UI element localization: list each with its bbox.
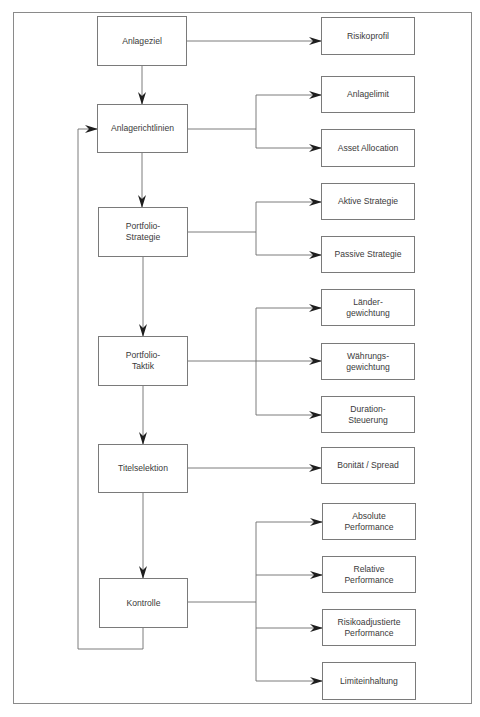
step-label: Portfolio- Strategie xyxy=(126,221,160,243)
detail-label: Absolute Performance xyxy=(344,511,393,533)
detail-label: Aktive Strategie xyxy=(338,196,398,207)
detail-label: Bonität / Spread xyxy=(337,460,399,471)
step-titelselektion: Titelselektion xyxy=(98,444,188,493)
detail-laendergewichtung: Länder- gewichtung xyxy=(321,289,415,326)
step-label: Anlageziel xyxy=(122,36,162,47)
step-anlageziel: Anlageziel xyxy=(97,16,187,66)
step-label: Portfolio- Taktik xyxy=(126,350,160,372)
detail-label: Risikoprofil xyxy=(347,31,389,42)
detail-label: Anlagelimit xyxy=(347,89,389,100)
detail-label: Passive Strategie xyxy=(335,249,402,260)
detail-passive-strategie: Passive Strategie xyxy=(321,236,415,273)
detail-label: Duration- Steuerung xyxy=(348,404,388,426)
step-portfolio-taktik: Portfolio- Taktik xyxy=(98,336,188,386)
detail-risikoprofil: Risikoprofil xyxy=(321,17,415,55)
detail-risikoadjustierte-performance: Risikoadjustierte Performance xyxy=(322,609,416,646)
detail-anlagelimit: Anlagelimit xyxy=(321,76,415,113)
detail-relative-performance: Relative Performance xyxy=(322,556,416,593)
detail-bonitaet-spread: Bonität / Spread xyxy=(321,447,415,484)
step-kontrolle: Kontrolle xyxy=(99,578,188,628)
detail-label: Risikoadjustierte Performance xyxy=(337,617,400,639)
step-anlagerichtlinien: Anlagerichtlinien xyxy=(97,104,188,153)
detail-asset-allocation: Asset Allocation xyxy=(321,129,415,167)
detail-label: Währungs- gewichtung xyxy=(346,351,389,373)
detail-absolute-performance: Absolute Performance xyxy=(322,503,416,540)
step-label: Kontrolle xyxy=(127,598,161,609)
detail-label: Limiteinhaltung xyxy=(340,676,398,687)
step-label: Anlagerichtlinien xyxy=(111,123,174,134)
detail-limiteinhaltung: Limiteinhaltung xyxy=(322,662,416,700)
detail-label: Länder- gewichtung xyxy=(346,297,389,319)
detail-label: Relative Performance xyxy=(344,564,393,586)
detail-label: Asset Allocation xyxy=(338,143,399,154)
detail-duration-steuerung: Duration- Steuerung xyxy=(321,396,415,433)
detail-aktive-strategie: Aktive Strategie xyxy=(321,183,415,220)
detail-waehrungsgewichtung: Währungs- gewichtung xyxy=(321,343,415,380)
step-label: Titelselektion xyxy=(118,463,168,474)
step-portfolio-strategie: Portfolio- Strategie xyxy=(98,207,188,257)
